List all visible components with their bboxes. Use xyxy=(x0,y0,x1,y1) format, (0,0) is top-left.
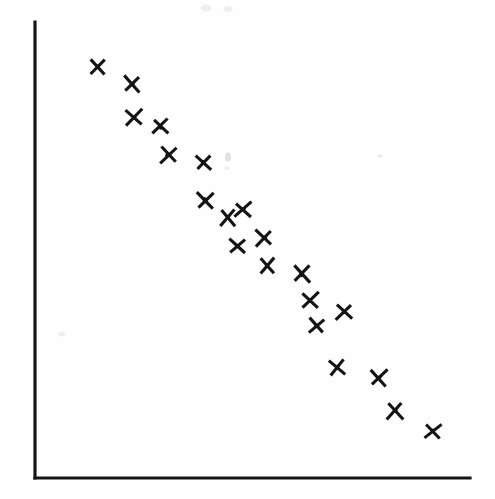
scan-smudge-mid-low xyxy=(225,166,229,170)
marker-ink-center xyxy=(263,236,267,240)
marker-ink-center xyxy=(431,429,435,433)
plot-canvas xyxy=(0,0,495,499)
scan-smudge-right xyxy=(377,154,383,158)
marker-ink-center xyxy=(133,116,137,120)
scan-smudge-low-left xyxy=(59,332,66,337)
scan-smudge-mid xyxy=(225,153,231,162)
scatter-plot-figure xyxy=(0,0,495,499)
marker-ink-center xyxy=(226,215,230,219)
scan-smudge-top-left xyxy=(201,5,212,12)
marker-ink-center xyxy=(131,83,135,87)
marker-ink-center xyxy=(159,126,163,130)
marker-ink-center xyxy=(165,153,169,157)
marker-ink-center xyxy=(394,408,398,412)
marker-ink-center xyxy=(342,311,346,315)
marker-ink-center xyxy=(201,160,205,164)
marker-ink-center xyxy=(299,273,303,277)
marker-ink-center xyxy=(242,207,246,211)
marker-ink-center xyxy=(96,65,100,69)
marker-ink-center xyxy=(265,264,269,268)
marker-ink-center xyxy=(314,324,318,328)
plot-background xyxy=(0,0,495,499)
marker-ink-center xyxy=(236,245,240,249)
scan-smudge-top-right xyxy=(224,6,233,12)
marker-ink-center xyxy=(378,375,382,379)
marker-ink-center xyxy=(336,364,340,368)
marker-ink-center xyxy=(202,197,206,201)
marker-ink-center xyxy=(308,299,312,303)
